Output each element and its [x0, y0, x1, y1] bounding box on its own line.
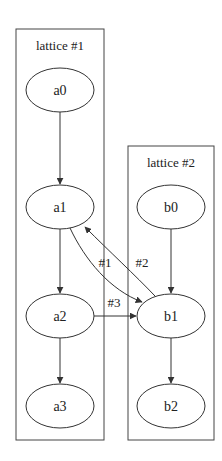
node-label-b2: b2 — [164, 399, 178, 414]
cluster-label-lattice-1: lattice #1 — [36, 38, 84, 53]
node-label-b0: b0 — [164, 200, 178, 215]
graph-canvas: lattice #1 lattice #2 #1 #2 #3 a0 a1 a2 … — [0, 0, 222, 461]
edge-label-1: #1 — [99, 255, 112, 270]
cluster-label-lattice-2: lattice #2 — [147, 155, 195, 170]
edge-label-2: #2 — [136, 255, 149, 270]
node-label-a0: a0 — [53, 83, 66, 98]
node-label-a2: a2 — [53, 309, 66, 324]
node-label-b1: b1 — [164, 309, 178, 324]
node-label-a1: a1 — [53, 200, 66, 215]
edge-label-3: #3 — [108, 295, 121, 310]
node-label-a3: a3 — [53, 399, 66, 414]
